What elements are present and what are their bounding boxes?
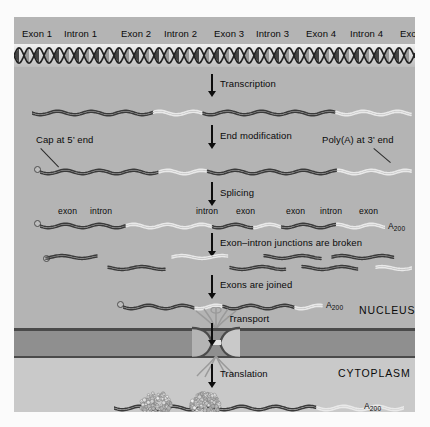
polya-tail-label-row7: A200 xyxy=(364,402,381,411)
step-label-splicing: Splicing xyxy=(220,188,254,198)
gene-segment-label-exon-5: Exon 5 xyxy=(400,29,415,39)
step-label-junctions-broken: Exon–intron junctions are broken xyxy=(220,238,362,248)
gene-segment-label-exon-4: Exon 4 xyxy=(306,29,336,39)
spliced-label-intron-5: intron xyxy=(320,207,342,216)
gene-segment-label-intron-2: Intron 2 xyxy=(164,29,197,39)
dna-helix-svg xyxy=(14,44,415,67)
strand-svg xyxy=(32,107,412,119)
polya-tail-label-row3: A200 xyxy=(388,222,405,231)
spliced-label-exon-4: exon xyxy=(286,207,305,216)
step-label-exons-joined: Exons are joined xyxy=(220,280,292,290)
spliced-label-exon-3: exon xyxy=(236,207,255,216)
spliced-label-exon-6: exon xyxy=(359,207,378,216)
annotation-cap-5-prime: Cap at 5’ end xyxy=(36,135,93,145)
spliced-label-intron-2: intron xyxy=(196,207,218,216)
gene-segment-label-intron-3: Intron 3 xyxy=(256,29,289,39)
step-label-end-modification: End modification xyxy=(220,131,292,141)
figure-rna-processing: Exon 1Intron 1Exon 2Intron 2Exon 3Intron… xyxy=(0,0,430,427)
step-label-transcription: Transcription xyxy=(220,79,276,89)
spliced-label-intron-1: intron xyxy=(90,207,112,216)
gene-segment-label-exon-3: Exon 3 xyxy=(214,29,244,39)
annotation-polya-3-prime: Poly(A) at 3’ end xyxy=(322,135,394,145)
dna-double-helix xyxy=(14,44,415,67)
region-label-nucleus: NUCLEUS xyxy=(359,305,415,316)
gene-segment-label-exon-2: Exon 2 xyxy=(121,29,151,39)
region-label-cytoplasm: CYTOPLASM xyxy=(338,368,411,379)
broken-fragments-row xyxy=(32,249,412,279)
ribosome-2 xyxy=(180,388,232,412)
spliced-label-exon-0: exon xyxy=(58,207,77,216)
polya-tail-label-row5: A200 xyxy=(326,301,343,310)
diagram-panel: Exon 1Intron 1Exon 2Intron 2Exon 3Intron… xyxy=(14,17,415,412)
strand-svg xyxy=(40,220,385,232)
strand-svg xyxy=(40,166,412,178)
nuclear-pore xyxy=(192,326,240,360)
gene-segment-label-intron-4: Intron 4 xyxy=(350,29,383,39)
gene-segment-label-intron-1: Intron 1 xyxy=(64,29,97,39)
pre-mrna-strand-1 xyxy=(32,105,412,123)
ribosome-1 xyxy=(130,388,182,412)
step-label-translation: Translation xyxy=(220,369,268,379)
fragments-svg xyxy=(32,249,412,275)
gene-segment-label-exon-1: Exon 1 xyxy=(22,29,52,39)
pre-mrna-strand-2 xyxy=(40,164,412,182)
